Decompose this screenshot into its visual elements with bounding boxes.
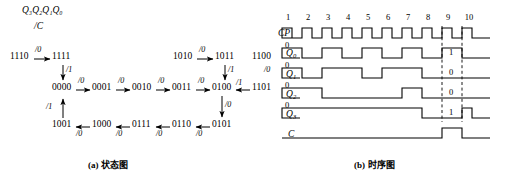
caption-b: (b) 时序图: [354, 158, 395, 171]
marked-value-q0: 1: [449, 47, 453, 57]
caption-a: (a) 状态图: [88, 158, 128, 171]
marked-value-q1: 0: [449, 67, 453, 77]
caption-b-index: (b): [354, 160, 365, 170]
figure-container: Q₃Q₂Q₁Q₀ /C 1110 1111 0000 0001 0010 001…: [0, 0, 519, 179]
state-diagram-panel: Q₃Q₂Q₁Q₀ /C 1110 1111 0000 0001 0010 001…: [0, 0, 258, 179]
marked-value-q3: 1: [449, 107, 453, 117]
state-diagram-arrows: [0, 0, 258, 179]
caption-b-text: 时序图: [368, 160, 395, 170]
initial-value-q1: 0: [285, 60, 289, 70]
marked-value-q2: 0: [449, 87, 453, 97]
timing-waveforms: [258, 0, 519, 179]
edge-label-0010-0011: /0: [158, 77, 164, 85]
edge-label-1111-0000: /1: [66, 66, 72, 74]
edge-label-0111-1000: /0: [116, 130, 122, 138]
initial-value-q3: 0: [285, 100, 289, 110]
edge-label-0101-0110: /0: [196, 130, 202, 138]
edge-label-0000-0001: /0: [78, 77, 84, 85]
edge-label-1110-1111: /0: [35, 46, 41, 54]
edge-label-0011-0100: /0: [198, 77, 204, 85]
edge-label-1101-0100: /1: [236, 79, 242, 87]
edge-label-0100-0101: /0: [225, 101, 231, 109]
edge-label-1000-1001: /0: [76, 130, 82, 138]
initial-value-q2: 0: [285, 80, 289, 90]
edge-label-0110-0111: /0: [156, 130, 162, 138]
edge-label-1001-0000: /1: [46, 103, 52, 111]
edge-label-1010-1011: /0: [199, 46, 205, 54]
timing-diagram-panel: 1 2 3 4 5 6 7 8 9 10 CP Q0 Q1 Q2 Q3 C: [258, 0, 519, 179]
caption-a-text: 状态图: [101, 160, 128, 170]
edge-label-1011-0100: /1: [228, 66, 234, 74]
initial-value-q0: 0: [285, 40, 289, 50]
edge-label-0001-0010: /0: [118, 77, 124, 85]
caption-a-index: (a): [88, 160, 99, 170]
